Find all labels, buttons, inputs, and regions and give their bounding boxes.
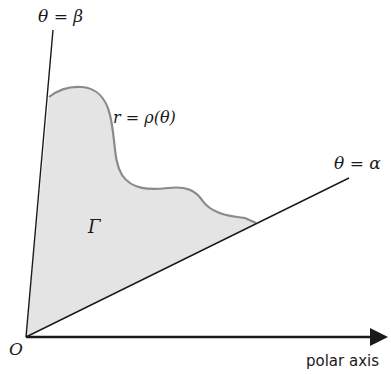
polar-axis-arrowhead [370, 328, 388, 346]
polar-region-diagram: θ = β θ = α r = ρ(θ) Γ O polar axis [0, 0, 391, 374]
label-polar-axis: polar axis [306, 352, 379, 370]
label-region: Γ [87, 216, 102, 237]
label-curve: r = ρ(θ) [113, 108, 176, 127]
label-theta-beta: θ = β [38, 6, 83, 26]
label-origin: O [9, 339, 23, 359]
label-theta-alpha: θ = α [334, 153, 381, 173]
